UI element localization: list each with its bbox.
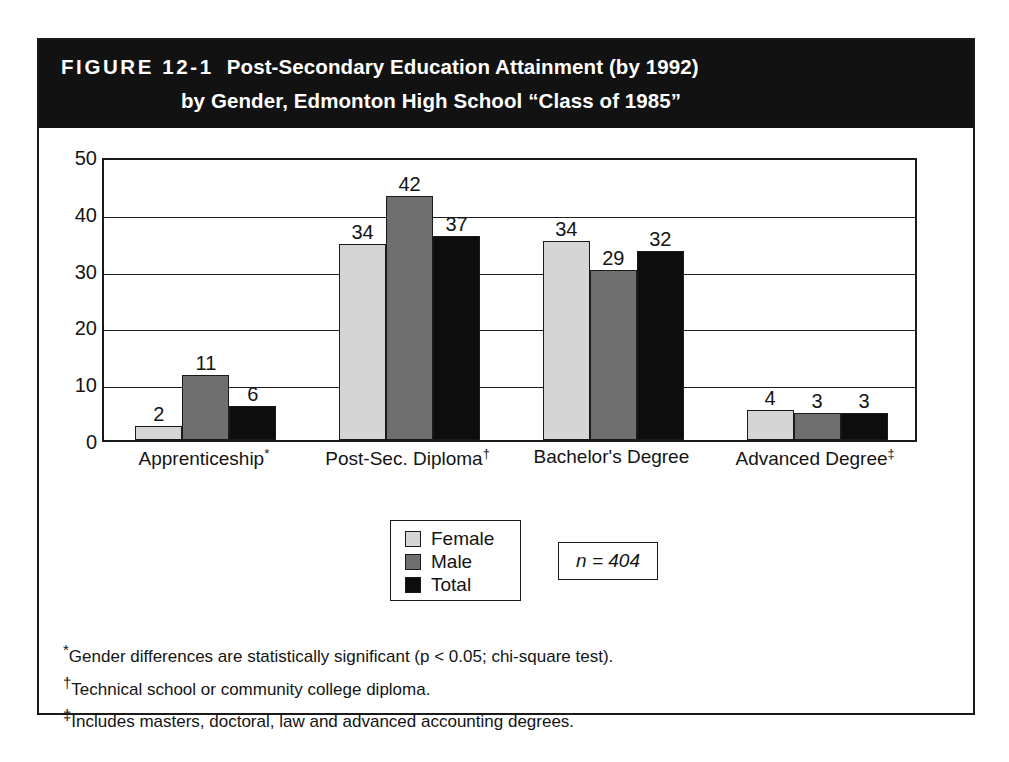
bar-male-3: [590, 270, 637, 440]
x-axis-category-labels: Apprenticeship*Post-Sec. Diploma†Bachelo…: [102, 446, 917, 476]
bar-value-label: 6: [247, 383, 258, 406]
bar-total-4: [841, 413, 888, 440]
bar-male-1: [182, 375, 229, 440]
bar-value-label: 34: [555, 218, 577, 241]
legend-label-male: Male: [431, 552, 472, 571]
figure-number: FIGURE 12-1: [61, 55, 214, 78]
bar-female-2: [339, 244, 386, 440]
legend-label-total: Total: [431, 575, 471, 594]
bar-value-label: 3: [812, 390, 823, 413]
bar-male-4: [794, 413, 841, 440]
bar-female-4: [747, 410, 794, 440]
sample-size-text: n = 404: [576, 550, 640, 572]
y-axis-tick-label: 50: [51, 147, 97, 170]
figure-title-line-1: FIGURE 12-1Post-Secondary Education Atta…: [61, 50, 951, 84]
bar-total-1: [229, 406, 276, 440]
legend-swatch-total: [405, 577, 421, 593]
y-axis-tick-label: 20: [51, 317, 97, 340]
gridline: [104, 217, 915, 218]
legend-item-male: Male: [405, 550, 520, 573]
y-axis-tick-labels: 01020304050: [47, 158, 97, 442]
chart-plot-area: 2116344237342932433: [102, 158, 917, 442]
chart-legend: FemaleMaleTotal: [390, 520, 521, 601]
figure-frame: FIGURE 12-1Post-Secondary Education Atta…: [37, 38, 975, 715]
footnote-1: *Gender differences are statistically si…: [63, 637, 943, 670]
bar-value-label: 42: [399, 173, 421, 196]
bar-value-label: 37: [446, 213, 468, 236]
legend-item-female: Female: [405, 527, 520, 550]
sample-size-box: n = 404: [558, 542, 658, 580]
gridline: [104, 274, 915, 275]
figure-title-text-1: Post-Secondary Education Attainment (by …: [227, 55, 699, 78]
footnote-3: ‡Includes masters, doctoral, law and adv…: [63, 702, 943, 735]
footnote-text: Includes masters, doctoral, law and adva…: [71, 712, 574, 731]
bar-male-2: [386, 196, 433, 440]
figure-title-line-2: by Gender, Edmonton High School “Class o…: [61, 84, 951, 118]
y-axis-tick-label: 10: [51, 374, 97, 397]
footnote-text: Gender differences are statistically sig…: [69, 647, 613, 666]
footnote-text: Technical school or community college di…: [71, 679, 430, 698]
y-axis-tick-label: 0: [51, 431, 97, 454]
x-axis-label-4: Advanced Degree‡: [735, 446, 894, 470]
bar-total-2: [433, 236, 480, 440]
bar-value-label: 4: [765, 387, 776, 410]
bar-value-label: 34: [352, 221, 374, 244]
bar-value-label: 11: [195, 352, 216, 375]
legend-swatch-male: [405, 554, 421, 570]
bar-value-label: 3: [859, 390, 870, 413]
bar-total-3: [637, 251, 684, 440]
bar-value-label: 2: [153, 403, 164, 426]
legend-item-total: Total: [405, 573, 520, 596]
gridline: [104, 330, 915, 331]
legend-label-female: Female: [431, 529, 494, 548]
y-axis-tick-label: 30: [51, 260, 97, 283]
footnote-2: †Technical school or community college d…: [63, 670, 943, 703]
bar-value-label: 29: [602, 247, 624, 270]
y-axis-tick-label: 40: [51, 203, 97, 226]
x-axis-label-2: Post-Sec. Diploma†: [325, 446, 490, 470]
x-axis-label-3: Bachelor's Degree: [534, 446, 690, 468]
bar-value-label: 32: [649, 228, 671, 251]
legend-swatch-female: [405, 531, 421, 547]
bar-female-3: [543, 241, 590, 440]
figure-title-bar: FIGURE 12-1Post-Secondary Education Atta…: [39, 40, 973, 128]
bar-female-1: [135, 426, 182, 440]
x-axis-label-1: Apprenticeship*: [138, 446, 269, 470]
footnotes-block: *Gender differences are statistically si…: [63, 637, 943, 735]
